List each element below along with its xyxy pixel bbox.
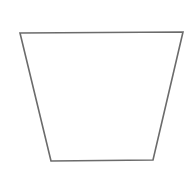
top-edge [20,32,183,33]
diagram-canvas [0,0,190,178]
background [0,0,190,178]
bottom-edge [51,160,153,161]
